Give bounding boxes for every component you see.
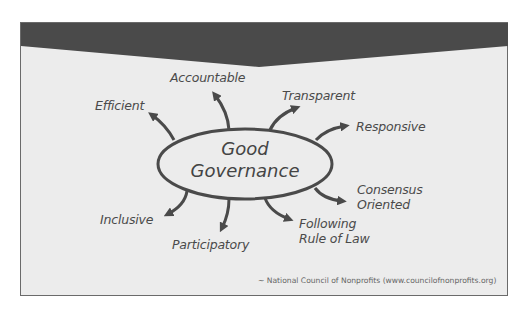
label-responsive: Responsive xyxy=(356,119,425,134)
header-banner xyxy=(21,23,508,67)
arrow-consensus xyxy=(315,188,342,201)
center-line-1: Good xyxy=(157,138,333,160)
arrow-participatory xyxy=(222,199,229,228)
label-consensus-line1: Consensus xyxy=(357,182,423,197)
label-rule-line1: Following xyxy=(299,216,369,231)
label-rule-of-law: Following Rule of Law xyxy=(299,216,369,246)
label-participatory: Participatory xyxy=(172,237,249,252)
label-consensus-line2: Oriented xyxy=(357,197,423,212)
center-label: Good Governance xyxy=(157,138,333,182)
label-accountable: Accountable xyxy=(170,70,245,85)
label-efficient: Efficient xyxy=(95,98,144,113)
arrow-accountable xyxy=(215,95,229,130)
arrow-efficient xyxy=(152,115,174,140)
arrow-inclusive xyxy=(168,191,187,214)
arrow-transparent xyxy=(270,108,296,130)
arrow-rule-of-law xyxy=(265,198,289,219)
center-line-2: Governance xyxy=(157,160,333,182)
label-transparent: Transparent xyxy=(282,88,355,103)
label-inclusive: Inclusive xyxy=(100,212,153,227)
label-rule-line2: Rule of Law xyxy=(299,231,369,246)
source-citation: ~ National Council of Nonprofits (www.co… xyxy=(258,276,496,285)
label-consensus-oriented: Consensus Oriented xyxy=(357,182,423,212)
